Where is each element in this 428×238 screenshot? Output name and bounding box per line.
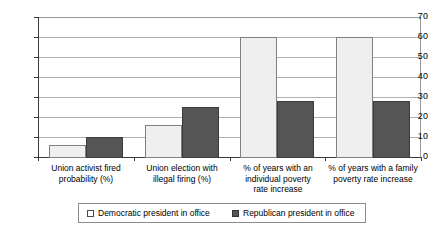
category-label-line: % of years with a family	[325, 163, 421, 174]
bar-democratic-2	[240, 37, 277, 158]
x-tick-mark-end-0	[38, 157, 39, 161]
category-label-line: illegal firing (%)	[134, 174, 230, 185]
bar-democratic-1	[145, 125, 182, 158]
legend-label-democratic: Democratic president in office	[98, 209, 210, 218]
bar-republican-1	[182, 107, 219, 158]
y-tick-label-40: 40	[396, 72, 428, 81]
y-tick-label-30: 30	[396, 92, 428, 101]
category-label-line: Union election with	[134, 163, 230, 174]
category-label-line: Union activist fired	[38, 163, 134, 174]
category-label-1: Union election withillegal firing (%)	[134, 163, 230, 184]
y-tick-label-50: 50	[396, 52, 428, 61]
category-label-2: % of years with anindividual povertyrate…	[230, 163, 326, 195]
category-label-line: probability (%)	[38, 174, 134, 185]
bar-republican-0	[86, 137, 123, 158]
legend-item-republican: Republican president in office	[232, 208, 354, 219]
bar-republican-2	[277, 101, 314, 158]
bar-republican-3	[373, 101, 410, 158]
category-label-line: rate increase	[230, 184, 326, 195]
category-label-line: % of years with an	[230, 163, 326, 174]
y-tick-label-60: 60	[396, 32, 428, 41]
category-label-0: Union activist firedprobability (%)	[38, 163, 134, 184]
x-tick-mark-end-1	[421, 157, 422, 161]
category-label-line: individual poverty	[230, 174, 326, 185]
y-axis-line	[38, 17, 39, 158]
category-label-line: poverty rate increase	[325, 174, 421, 185]
y-tick-label-70: 70	[396, 12, 428, 21]
legend-swatch-republican-icon	[232, 210, 239, 217]
bar-chart: 010203040506070 Union activist firedprob…	[0, 0, 428, 238]
x-tick-mark-1	[134, 157, 135, 161]
legend-label-republican: Republican president in office	[243, 209, 354, 218]
legend-item-democratic: Democratic president in office	[87, 208, 210, 219]
legend-swatch-democratic-icon	[87, 210, 94, 217]
chart-legend: Democratic president in office Republica…	[78, 203, 366, 223]
x-tick-mark-3	[325, 157, 326, 161]
bar-democratic-0	[49, 145, 86, 158]
bar-democratic-3	[336, 37, 373, 158]
category-label-3: % of years with a familypoverty rate inc…	[325, 163, 421, 184]
x-tick-mark-2	[230, 157, 231, 161]
